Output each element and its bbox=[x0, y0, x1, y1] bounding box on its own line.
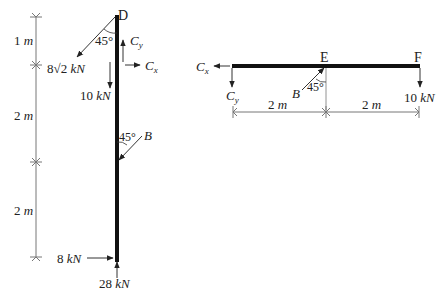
cy-label: Cy bbox=[130, 33, 143, 50]
beam-f-force-label: 10 kN bbox=[404, 90, 436, 105]
beam-b-label: B bbox=[292, 86, 300, 101]
point-label-d: D bbox=[118, 8, 128, 23]
beam-cy-label: Cy bbox=[226, 88, 239, 105]
angle-label-d: 45° bbox=[95, 33, 113, 48]
beam-cx-label: Cx bbox=[196, 59, 209, 76]
point-label-f: F bbox=[414, 50, 422, 65]
free-body-diagrams: 1 m 2 m 2 m D 45° 8√2 kN 10 kN Cy Cx 45°… bbox=[0, 0, 445, 294]
bottom-horizontal-force-label: 8 kN bbox=[57, 251, 83, 266]
b-label: B bbox=[144, 128, 152, 143]
vertical-dimension-line bbox=[30, 13, 42, 261]
right-member-diagram: E F Cx Cy 45° B 10 kN 2 m 2 m bbox=[196, 50, 436, 118]
b-angle-label: 45° bbox=[119, 130, 136, 144]
bottom-vertical-force-label: 28 kN bbox=[99, 276, 131, 291]
downward-force-label: 10 kN bbox=[80, 88, 112, 103]
dimension-label-1m: 1 m bbox=[14, 33, 33, 48]
beam-dimension-label-left: 2 m bbox=[268, 97, 287, 112]
diagonal-force-label: 8√2 kN bbox=[47, 61, 86, 76]
beam-b-angle-label: 45° bbox=[307, 80, 324, 94]
left-member-diagram: 1 m 2 m 2 m D 45° 8√2 kN 10 kN Cy Cx 45°… bbox=[14, 8, 158, 291]
dimension-label-2m-upper: 2 m bbox=[14, 108, 33, 123]
dimension-label-2m-lower: 2 m bbox=[14, 203, 33, 218]
cx-label: Cx bbox=[145, 58, 158, 75]
point-label-e: E bbox=[320, 50, 329, 65]
horizontal-dimension-line bbox=[233, 106, 419, 118]
beam-dimension-label-right: 2 m bbox=[362, 97, 381, 112]
